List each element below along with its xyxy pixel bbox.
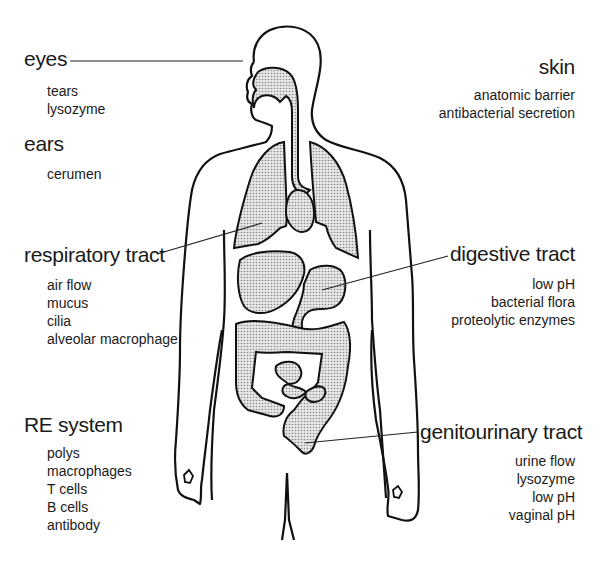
ears-item: cerumen [47,165,101,183]
respiratory-item: mucus [47,294,178,312]
liver [238,251,304,313]
re-system-item: antibody [47,516,132,534]
re-system-item: T cells [47,480,132,498]
skin-heading: skin [439,56,575,78]
re-system-item: B cells [47,498,132,516]
respiratory-item: cilia [47,312,178,330]
organs [234,68,358,454]
re-system-item: macrophages [47,462,132,480]
digestive-item: low pH [450,275,575,293]
label-ears: ears cerumen [24,133,101,183]
eyes-heading: eyes [24,48,105,70]
ears-heading: ears [24,133,101,155]
re-system-item: polys [47,444,132,462]
right-hand-mark [393,486,402,498]
label-digestive-tract: digestive tract low pH bacterial flora p… [450,243,575,329]
digestive-item: bacterial flora [450,293,575,311]
genitourinary-heading: genitourinary tract [420,421,582,443]
skin-item: anatomic barrier [439,86,575,104]
genitourinary-item: lysozyme [509,470,575,488]
heart [286,190,314,232]
genitourinary-item: low pH [509,488,575,506]
genitourinary-items: urine flow lysozyme low pH vaginal pH [509,452,575,524]
left-lung [234,142,287,248]
eyes-item: lysozyme [47,100,105,118]
digestive-heading: digestive tract [450,243,575,265]
re-system-heading: RE system [24,414,132,436]
genitourinary-item: urine flow [509,452,575,470]
genitourinary-item: vaginal pH [509,506,575,524]
respiratory-item: air flow [47,276,178,294]
respiratory-item: alveolar macrophage [47,330,178,348]
digestive-item: proteolytic enzymes [450,311,575,329]
skin-item: antibacterial secretion [439,104,575,122]
label-respiratory-tract: respiratory tract air flow mucus cilia a… [24,244,178,348]
label-genitourinary-tract: genitourinary tract [420,421,582,443]
eyes-item: tears [47,82,105,100]
label-re-system: RE system polys macrophages T cells B ce… [24,414,132,534]
label-skin: skin anatomic barrier antibacterial secr… [439,56,575,122]
right-lung [310,142,358,258]
label-eyes: eyes tears lysozyme [24,48,105,118]
left-hand-mark [184,470,193,483]
respiratory-heading: respiratory tract [24,244,178,266]
